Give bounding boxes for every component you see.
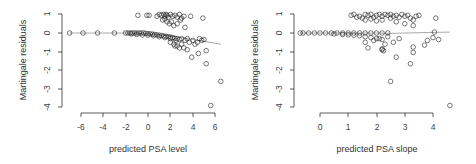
data-point (434, 16, 439, 21)
data-point (204, 48, 209, 53)
x-tick-label: 4 (431, 122, 436, 132)
data-point (136, 13, 141, 18)
y-tick-label: 0 (274, 30, 284, 35)
data-point (397, 36, 402, 41)
data-point (183, 25, 188, 30)
data-point (187, 40, 192, 45)
data-point (422, 43, 427, 48)
data-point (369, 12, 374, 17)
x-tick-label: 6 (213, 122, 218, 132)
x-tick-label: 4 (191, 122, 196, 132)
data-point (425, 38, 430, 43)
y-tick-label: 1 (274, 11, 284, 16)
data-point (349, 13, 354, 18)
data-point (388, 79, 393, 84)
y-ticks-left: 1 0 -1 -2 -3 -4 (42, 11, 62, 110)
data-point (394, 20, 399, 25)
data-point (366, 46, 371, 51)
data-point (188, 14, 193, 19)
x-tick-label: 0 (318, 122, 323, 132)
y-tick-label: -1 (274, 48, 284, 56)
y-axis-title-left: Martingale residuals (18, 19, 28, 100)
data-point (363, 40, 368, 45)
x-tick-label: 3 (403, 122, 408, 132)
data-point (374, 19, 379, 24)
y-tick-label: -2 (42, 66, 52, 74)
data-point (394, 55, 399, 60)
data-point (403, 21, 408, 26)
y-tick-label: -4 (42, 103, 52, 111)
data-point (411, 23, 416, 28)
data-point (332, 32, 337, 37)
x-axis-title-left: predicted PSA level (109, 144, 187, 154)
data-point (352, 12, 357, 17)
data-point (411, 45, 416, 50)
data-point (386, 13, 391, 18)
data-point (383, 42, 388, 47)
y-tick-label: -2 (274, 66, 284, 74)
data-point (354, 15, 359, 20)
data-point (380, 37, 385, 42)
panel-predicted-psa-level: Martingale residuals 1 0 -1 -2 -3 -4 (18, 11, 223, 154)
data-point (369, 35, 374, 40)
data-point (196, 51, 201, 56)
x-tick-label: 0 (146, 122, 151, 132)
data-point (408, 61, 413, 66)
data-point (391, 40, 396, 45)
data-point (377, 36, 382, 41)
y-tick-label: -3 (42, 85, 52, 93)
y-axis-title-right: Martingale residuals (250, 19, 260, 100)
x-tick-label: -2 (122, 122, 130, 132)
data-point (208, 103, 213, 108)
data-point (448, 103, 453, 108)
data-point (411, 50, 416, 55)
y-tick-label: 0 (42, 30, 52, 35)
x-tick-label: -6 (77, 122, 85, 132)
data-point (436, 37, 441, 42)
data-point (431, 35, 436, 40)
data-point (417, 13, 422, 18)
scatter-points-left (67, 12, 223, 108)
x-tick-label: 1 (346, 122, 351, 132)
data-point (357, 34, 362, 39)
x-tick-label: -4 (99, 122, 107, 132)
data-point (189, 55, 194, 60)
y-tick-label: -1 (42, 48, 52, 56)
panel-predicted-psa-slope: Martingale residuals 1 0 -1 -2 -3 -4 0 1… (250, 11, 452, 154)
figure: Martingale residuals 1 0 -1 -2 -3 -4 (0, 0, 476, 164)
smoother-line-right (300, 32, 450, 33)
x-tick-label: 2 (168, 122, 173, 132)
y-tick-label: 1 (42, 11, 52, 16)
y-ticks-right: 1 0 -1 -2 -3 -4 (274, 11, 294, 110)
x-axis-title-right: predicted PSA slope (336, 144, 417, 154)
scatter-points-right (298, 12, 452, 108)
x-tick-label: 2 (375, 122, 380, 132)
data-point (363, 12, 368, 17)
data-point (201, 16, 206, 21)
data-point (219, 79, 224, 84)
data-point (204, 61, 209, 66)
x-ticks-right: 0 1 2 3 4 (318, 113, 436, 132)
data-point (405, 13, 410, 18)
data-point (414, 14, 419, 19)
x-ticks-left: -6 -4 -2 0 2 4 6 (77, 113, 217, 132)
y-tick-label: -3 (274, 85, 284, 93)
y-tick-label: -4 (274, 103, 284, 111)
